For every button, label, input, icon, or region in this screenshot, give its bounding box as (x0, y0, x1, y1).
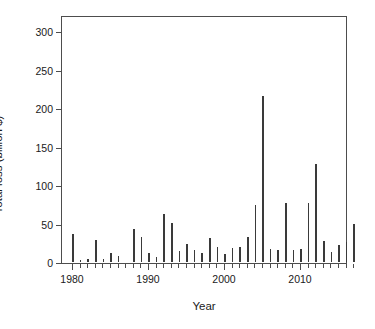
bar (331, 252, 333, 262)
x-tick-mark (178, 264, 179, 268)
bar (217, 247, 219, 262)
x-tick-mark (133, 264, 134, 268)
bar (118, 256, 120, 262)
x-tick-mark (171, 264, 172, 268)
bar (110, 253, 112, 262)
x-tick-mark (338, 264, 339, 268)
x-tick-mark (80, 264, 81, 268)
bar (171, 223, 173, 262)
bar (141, 237, 143, 262)
bar (239, 247, 241, 262)
bar (194, 250, 196, 262)
x-tick-mark (140, 264, 141, 268)
x-tick-mark (102, 264, 103, 268)
x-tick-mark (163, 264, 164, 268)
bar (80, 260, 82, 262)
x-tick-mark (186, 264, 187, 268)
bar (315, 164, 317, 262)
bar (133, 229, 135, 262)
x-tick-mark (95, 264, 96, 268)
x-tick-mark (201, 264, 202, 268)
x-tick-mark (87, 264, 88, 268)
bar (247, 237, 249, 262)
x-axis: 1980199020002010 (0, 264, 375, 304)
bar (87, 259, 89, 262)
y-tick-label: 250 (35, 65, 53, 76)
x-tick-mark (285, 264, 286, 268)
x-tick-mark (254, 264, 255, 268)
x-tick-mark (118, 264, 119, 268)
bar (262, 96, 264, 262)
y-tick-label: 100 (35, 181, 53, 192)
x-tick-mark (346, 264, 347, 268)
y-tick-label: 50 (41, 219, 53, 230)
x-tick-mark-major (72, 264, 73, 270)
bar (201, 253, 203, 262)
bar (270, 249, 272, 262)
x-tick-label: 1990 (136, 273, 159, 285)
x-tick-label: 1980 (60, 273, 83, 285)
y-tick-label: 200 (35, 104, 53, 115)
x-tick-label: 2010 (288, 273, 311, 285)
bar (224, 254, 226, 262)
x-tick-mark (292, 264, 293, 268)
y-tick-label: 150 (35, 142, 53, 153)
x-tick-mark (194, 264, 195, 268)
bar (277, 250, 279, 262)
x-tick-mark (216, 264, 217, 268)
x-tick-mark (125, 264, 126, 268)
bar (308, 203, 310, 262)
bar (300, 249, 302, 262)
x-tick-mark (330, 264, 331, 268)
x-tick-mark (308, 264, 309, 268)
bar (346, 242, 348, 262)
plot-area (61, 16, 347, 264)
bar (285, 203, 287, 262)
bar (72, 234, 74, 262)
bar (255, 205, 257, 262)
x-tick-mark (277, 264, 278, 268)
x-tick-mark (232, 264, 233, 268)
x-tick-label: 2000 (212, 273, 235, 285)
bar (338, 245, 340, 262)
chart-screenshot: Total loss (billion $) 05010015020025030… (0, 0, 375, 329)
bar (95, 240, 97, 262)
y-tick-label: 300 (35, 27, 53, 38)
x-tick-mark (239, 264, 240, 268)
bar (353, 224, 355, 263)
bars-layer (62, 17, 346, 263)
bar (156, 257, 158, 262)
x-tick-mark (315, 264, 316, 268)
x-tick-mark (262, 264, 263, 268)
x-tick-mark (323, 264, 324, 268)
x-tick-mark (209, 264, 210, 268)
bar (232, 248, 234, 262)
x-tick-mark-major (224, 264, 225, 270)
x-tick-mark-major (300, 264, 301, 270)
x-axis-title: Year (61, 300, 347, 312)
bar (209, 238, 211, 262)
bar (179, 251, 181, 262)
x-tick-mark (110, 264, 111, 268)
x-tick-mark (270, 264, 271, 268)
bar (323, 241, 325, 262)
x-tick-mark-major (148, 264, 149, 270)
x-tick-mark (247, 264, 248, 268)
bar (103, 259, 105, 262)
bar (148, 253, 150, 262)
x-tick-mark (156, 264, 157, 268)
bar (163, 214, 165, 263)
bar (293, 250, 295, 262)
bar (186, 244, 188, 262)
x-tick-mark (353, 264, 354, 268)
